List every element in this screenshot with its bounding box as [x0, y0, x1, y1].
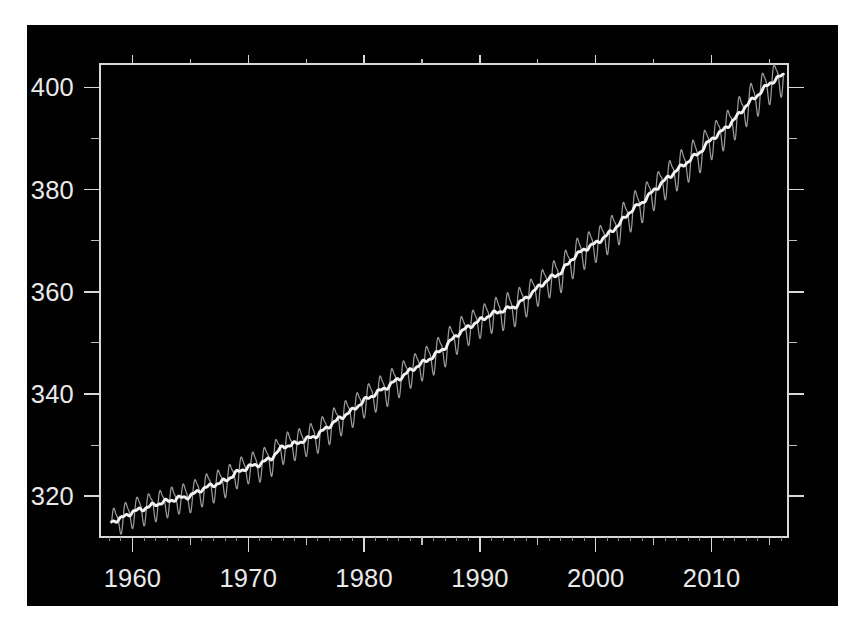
x-tick-label: 1990	[451, 564, 509, 592]
keeling-curve-chart: 196019701980199020002010320340360380400	[27, 25, 838, 606]
x-tick-label: 1960	[104, 564, 162, 592]
chart-panel: 196019701980199020002010320340360380400	[27, 25, 838, 606]
series-trend-line	[112, 74, 784, 522]
plot-frame	[100, 64, 788, 537]
x-tick-label: 1970	[219, 564, 277, 592]
series-seasonal-line	[112, 65, 784, 534]
figure-root: 196019701980199020002010320340360380400	[0, 0, 866, 641]
y-tick-label: 380	[31, 176, 74, 204]
y-tick-label: 360	[31, 278, 74, 306]
y-tick-label: 400	[31, 73, 74, 101]
x-tick-label: 2000	[567, 564, 625, 592]
y-tick-label: 320	[31, 482, 74, 510]
y-tick-label: 340	[31, 380, 74, 408]
x-tick-label: 1980	[335, 564, 393, 592]
x-tick-label: 2010	[683, 564, 741, 592]
